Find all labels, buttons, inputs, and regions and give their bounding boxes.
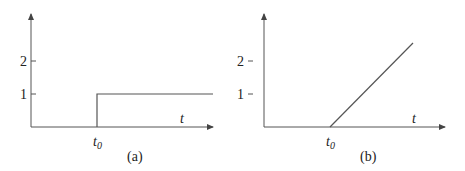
panel-b-caption: (b) xyxy=(360,149,377,165)
panel-b-t0-label: t0 xyxy=(326,134,335,151)
panel-a-step-curve xyxy=(97,94,213,127)
panel-b-tick-label-2: 2 xyxy=(237,54,244,69)
panel-a-t0-label: t0 xyxy=(93,134,102,151)
panel-b-tick-label-1: 1 xyxy=(237,87,244,102)
panel-b-ramp-curve xyxy=(330,43,413,127)
panel-a-x-axis-label: t xyxy=(180,111,185,126)
figure: 2 1 t t0 (a) 2 1 t t0 (b) xyxy=(0,0,465,171)
panel-b-x-axis-label: t xyxy=(412,111,417,126)
panel-a-tick-label-2: 2 xyxy=(20,54,27,69)
panel-a-step-plot: 2 1 t t0 (a) xyxy=(20,14,213,165)
panel-a-caption: (a) xyxy=(127,149,143,165)
panel-a-tick-label-1: 1 xyxy=(20,87,27,102)
panel-b-ramp-plot: 2 1 t t0 (b) xyxy=(237,14,445,165)
